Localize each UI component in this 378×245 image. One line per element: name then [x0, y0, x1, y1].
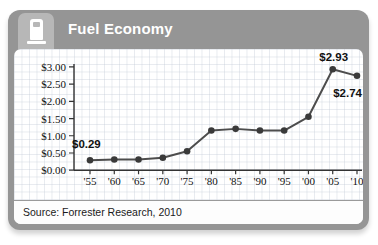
svg-text:'70: '70 [156, 175, 169, 187]
svg-text:'10: '10 [351, 175, 363, 187]
svg-text:'90: '90 [253, 175, 266, 187]
gas-pump-icon [30, 19, 43, 40]
svg-text:'00: '00 [302, 175, 315, 187]
svg-text:$2.93: $2.93 [319, 51, 348, 63]
svg-text:'55: '55 [84, 175, 97, 187]
svg-text:'80: '80 [205, 175, 218, 187]
svg-text:'85: '85 [229, 175, 242, 187]
svg-text:'05: '05 [326, 175, 339, 187]
gas-pump-screen [33, 22, 40, 27]
gas-pump-base [27, 41, 46, 44]
chart-area: $0.00$0.50$1.00$1.50$2.00$2.50$3.00'55'6… [14, 49, 363, 201]
svg-text:'60: '60 [108, 175, 121, 187]
chart-title: Fuel Economy [68, 20, 173, 37]
svg-text:'75: '75 [181, 175, 194, 187]
svg-text:$0.00: $0.00 [41, 164, 66, 176]
svg-text:'65: '65 [132, 175, 145, 187]
svg-text:$0.29: $0.29 [72, 138, 101, 150]
icon-tab [18, 13, 54, 49]
svg-text:$2.00: $2.00 [41, 95, 66, 107]
fuel-economy-card: Fuel Economy $0.00$0.50$1.00$1.50$2.00$2… [8, 10, 369, 230]
svg-text:$2.74: $2.74 [333, 87, 362, 99]
svg-text:$2.50: $2.50 [41, 78, 66, 90]
svg-text:$0.50: $0.50 [41, 147, 66, 159]
chart-panel: $0.00$0.50$1.00$1.50$2.00$2.50$3.00'55'6… [14, 49, 363, 224]
fuel-price-line-chart: $0.00$0.50$1.00$1.50$2.00$2.50$3.00'55'6… [14, 49, 363, 201]
card-header: Fuel Economy [8, 10, 369, 49]
svg-text:'95: '95 [278, 175, 291, 187]
svg-text:$1.50: $1.50 [41, 113, 66, 125]
svg-text:$1.00: $1.00 [41, 130, 66, 142]
source-note: Source: Forrester Research, 2010 [14, 200, 363, 224]
svg-text:$3.00: $3.00 [41, 61, 66, 73]
